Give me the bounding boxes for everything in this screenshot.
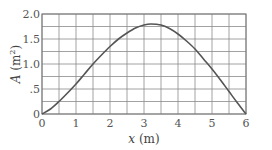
x-tick-label: 3 <box>141 117 148 130</box>
x-axis-label: x (m) <box>128 132 159 146</box>
y-tick-label: 1.5 <box>23 33 41 46</box>
y-axis-label: A (m2) <box>8 45 23 84</box>
x-tick-labels: 0123456 <box>39 117 250 130</box>
area-vs-position-chart: 0123456 0.51.01.52.0 x (m) A (m2) <box>0 0 272 150</box>
y-tick-label: 2.0 <box>23 8 41 21</box>
x-tick-label: 6 <box>243 117 250 130</box>
y-tick-label: .5 <box>30 83 41 96</box>
y-tick-labels: 0.51.01.52.0 <box>23 8 41 121</box>
x-tick-label: 5 <box>209 117 216 130</box>
y-tick-label: 0 <box>33 108 40 121</box>
x-tick-label: 1 <box>73 117 80 130</box>
x-tick-label: 4 <box>175 117 182 130</box>
x-tick-label: 2 <box>107 117 114 130</box>
grid-lines <box>42 14 246 114</box>
y-tick-label: 1.0 <box>23 58 41 71</box>
